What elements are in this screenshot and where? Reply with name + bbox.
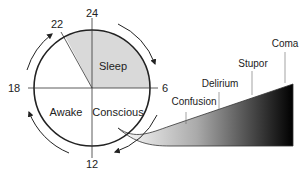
conscious-label: Conscious bbox=[92, 106, 144, 118]
consciousness-diagram: 24 22 6 12 18 Sleep Awake Conscious Conf… bbox=[0, 0, 307, 176]
diagram-svg: 24 22 6 12 18 Sleep Awake Conscious Conf… bbox=[0, 0, 307, 176]
coma-label: Coma bbox=[272, 38, 299, 49]
awake-label: Awake bbox=[50, 106, 83, 118]
confusion-label: Confusion bbox=[171, 96, 216, 107]
stupor-label: Stupor bbox=[238, 58, 268, 69]
cycle-arrow-bottom-left bbox=[29, 112, 69, 153]
delirium-label: Delirium bbox=[202, 78, 239, 89]
sleep-label: Sleep bbox=[99, 60, 127, 72]
hour-22: 22 bbox=[51, 18, 63, 30]
hour-6: 6 bbox=[162, 82, 168, 94]
sleep-sector bbox=[65, 30, 150, 88]
hour-24: 24 bbox=[86, 7, 98, 19]
hour-18: 18 bbox=[8, 82, 20, 94]
hour-12: 12 bbox=[86, 158, 98, 170]
severity-wedge bbox=[118, 84, 293, 146]
